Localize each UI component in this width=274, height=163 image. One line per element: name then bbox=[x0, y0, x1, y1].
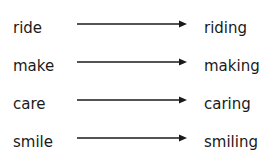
base-word: ride bbox=[13, 18, 42, 38]
arrow-right-icon bbox=[77, 58, 187, 66]
arrow-right-icon bbox=[77, 20, 187, 28]
ing-word: smiling bbox=[204, 132, 258, 152]
base-word: care bbox=[13, 94, 46, 114]
ing-word: making bbox=[204, 56, 260, 76]
arrow-right-icon bbox=[77, 134, 187, 142]
base-word: smile bbox=[13, 132, 53, 152]
ing-word: caring bbox=[204, 94, 251, 114]
word-pair-row: care caring bbox=[0, 86, 274, 124]
word-pair-row: smile smiling bbox=[0, 124, 274, 162]
word-pair-row: ride riding bbox=[0, 10, 274, 48]
arrow-right-icon bbox=[77, 96, 187, 104]
word-pair-row: make making bbox=[0, 48, 274, 86]
ing-word: riding bbox=[204, 18, 247, 38]
base-word: make bbox=[13, 56, 54, 76]
